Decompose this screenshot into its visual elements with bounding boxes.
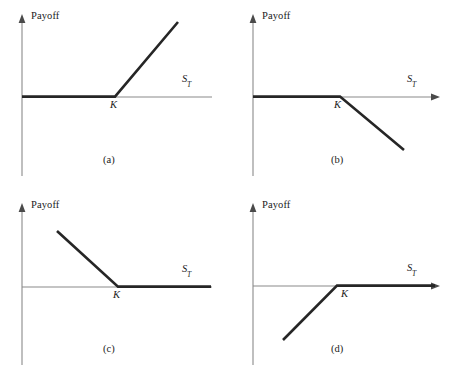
x-axis-label: ST <box>182 74 191 87</box>
strike-label: K <box>113 290 120 301</box>
payoff-curve-short-call <box>253 97 404 150</box>
x-axis-label: ST <box>407 263 416 276</box>
x-axis-label-subscript: T <box>412 80 416 89</box>
panel-caption: (a) <box>103 155 115 166</box>
y-axis-arrowhead <box>19 203 26 212</box>
y-axis-arrowhead <box>250 14 257 23</box>
payoff-curve-short-put <box>283 286 435 340</box>
payoff-panel-d: Payoff ST K (d) <box>226 189 452 378</box>
x-axis-label-subscript: T <box>187 270 191 279</box>
y-axis-label: Payoff <box>262 11 290 22</box>
payoff-panel-a: Payoff ST K (a) <box>0 0 226 189</box>
y-axis-arrowhead <box>250 203 257 212</box>
x-axis-label: ST <box>182 264 191 277</box>
x-axis-label: ST <box>407 74 416 87</box>
payoff-panel-c: Payoff ST K (c) <box>0 189 226 378</box>
y-axis-label: Payoff <box>31 200 59 211</box>
panel-caption: (b) <box>331 155 343 166</box>
payoff-panel-b: Payoff ST K (b) <box>226 0 452 189</box>
panel-caption: (d) <box>331 344 343 355</box>
option-payoff-figure: Payoff ST K (a) Payoff ST K (b) Payoff S… <box>0 0 453 378</box>
x-axis-arrowhead <box>431 93 440 100</box>
payoff-curve-long-call <box>22 22 178 97</box>
y-axis-arrowhead <box>19 14 26 23</box>
x-axis-label-subscript: T <box>412 269 416 278</box>
strike-label: K <box>341 289 348 300</box>
y-axis-label: Payoff <box>262 200 290 211</box>
panel-caption: (c) <box>103 344 115 355</box>
strike-label: K <box>110 100 117 111</box>
y-axis-label: Payoff <box>31 11 59 22</box>
strike-label: K <box>334 100 341 111</box>
x-axis-label-subscript: T <box>187 80 191 89</box>
